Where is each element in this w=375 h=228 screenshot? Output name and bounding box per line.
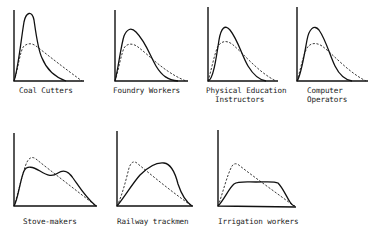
group-curve [14, 13, 66, 81]
reference-curve [117, 162, 192, 206]
panel-irrigation-workers [218, 130, 296, 207]
group-curve [297, 27, 352, 81]
reference-curve [297, 44, 366, 81]
axes [117, 131, 193, 206]
reference-curve [14, 44, 82, 81]
panel-computer-operators [297, 7, 368, 81]
panel-physical-education-instructors [208, 7, 278, 81]
panel-coal-cutters [14, 10, 84, 81]
panel-railway-trackmen [117, 131, 193, 206]
panel-foundry-workers [115, 10, 188, 81]
panel-label-irrigation-workers: Irrigation workers [218, 217, 299, 226]
axes [115, 10, 188, 81]
axes [297, 7, 368, 81]
panel-label-railway-trackmen: Railway trackmen [117, 217, 189, 226]
reference-curve [115, 44, 186, 81]
group-curve [208, 27, 266, 81]
panel-label-foundry-workers: Foundry Workers [113, 86, 180, 95]
panel-label-physical-education-line1: Physical Education [206, 86, 287, 95]
reference-curve [218, 164, 294, 206]
panel-label-computer-operators-line1: Computer [307, 86, 343, 95]
axes [14, 133, 97, 206]
panel-stove-makers [14, 133, 97, 206]
panel-label-coal-cutters: Coal Cutters [19, 86, 73, 95]
axes [218, 130, 296, 207]
panel-label-stove-makers: Stove-makers [23, 217, 77, 226]
figure-canvas [0, 0, 375, 228]
panel-label-physical-education-line2: Instructors [206, 95, 264, 104]
panel-label-computer-operators-line2: Operators [307, 95, 347, 104]
reference-curve [14, 158, 96, 206]
group-curve [14, 167, 96, 206]
group-curve [115, 29, 178, 81]
group-curve [218, 182, 295, 206]
